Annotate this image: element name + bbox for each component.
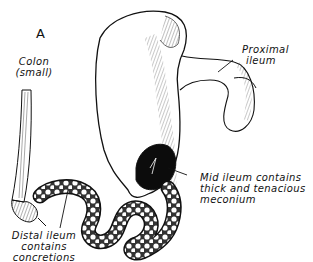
panel-letter: A: [36, 26, 45, 41]
colon: [12, 90, 46, 226]
label-distal-ileum: Distal ileum contains concretions: [6, 230, 82, 262]
proximal-ileum: [180, 56, 256, 131]
leader-distal: [60, 190, 68, 228]
intestine-drawing: [0, 0, 313, 262]
label-colon: Colon (small): [14, 56, 54, 78]
label-mid-ileum: Mid ileum contains thick and tenacious m…: [200, 172, 306, 205]
illustration: A Colon (small) Proximal ileum Mid ileum…: [0, 0, 313, 262]
label-proximal-ileum: Proximal ileum: [242, 44, 289, 66]
